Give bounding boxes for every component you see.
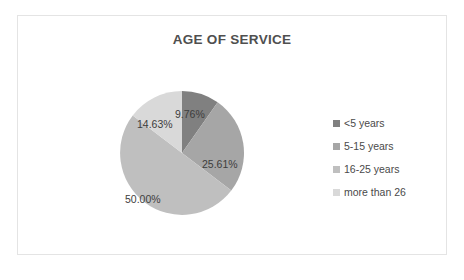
legend-item-2[interactable]: 16-25 years — [333, 158, 445, 181]
chart-legend: <5 years 5-15 years 16-25 years more tha… — [333, 112, 445, 204]
legend-item-1[interactable]: 5-15 years — [333, 135, 445, 158]
legend-swatch-icon-0 — [333, 120, 340, 127]
slice-label-2: 50.00% — [125, 193, 161, 205]
legend-item-3[interactable]: more than 26 — [333, 181, 445, 204]
legend-label-1: 5-15 years — [344, 141, 394, 152]
legend-item-0[interactable]: <5 years — [333, 112, 445, 135]
slice-label-3: 14.63% — [137, 118, 173, 130]
legend-swatch-icon-1 — [333, 143, 340, 150]
legend-swatch-icon-2 — [333, 166, 340, 173]
chart-frame: AGE OF SERVICE 9.76% 25.61% 50.00% 14.63… — [17, 15, 447, 255]
legend-label-2: 16-25 years — [344, 164, 399, 175]
slice-label-0: 9.76% — [175, 108, 205, 120]
plot-area: 9.76% 25.61% 50.00% 14.63% <5 years 5-15… — [18, 16, 448, 254]
legend-swatch-icon-3 — [333, 189, 340, 196]
slice-label-1: 25.61% — [202, 158, 238, 170]
legend-label-3: more than 26 — [344, 187, 406, 198]
legend-label-0: <5 years — [344, 118, 385, 129]
